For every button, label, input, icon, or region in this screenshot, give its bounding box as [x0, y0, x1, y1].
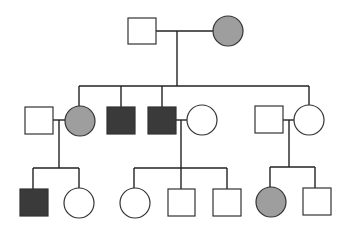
female-unaffected-III-3: [120, 188, 150, 218]
male-unaffected-III-4: [168, 189, 195, 216]
male-affected-III-1: [20, 189, 48, 216]
male-unaffected-III-5: [213, 189, 241, 216]
female-affected-I-2: [213, 16, 243, 46]
male-affected-II-3: [107, 107, 135, 134]
generation-2: [25, 105, 324, 189]
female-unaffected-II-7: [294, 105, 324, 135]
male-unaffected-III-7: [303, 188, 331, 215]
male-unaffected-II-1: [25, 107, 53, 134]
female-affected-II-2: [65, 106, 95, 136]
female-unaffected-II-5: [187, 105, 217, 135]
female-affected-III-6: [256, 187, 286, 217]
generation-1: [128, 16, 243, 86]
female-unaffected-III-2: [64, 188, 94, 218]
generation-3: [20, 167, 331, 218]
male-affected-II-4: [148, 107, 176, 134]
male-unaffected-I-1: [128, 18, 156, 44]
pedigree-chart: [0, 0, 349, 229]
male-unaffected-II-6: [255, 106, 283, 133]
